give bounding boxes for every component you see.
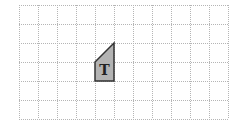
shape-label: T	[99, 62, 110, 78]
grid-diagram: T	[0, 0, 239, 127]
grid-lines	[19, 5, 229, 120]
